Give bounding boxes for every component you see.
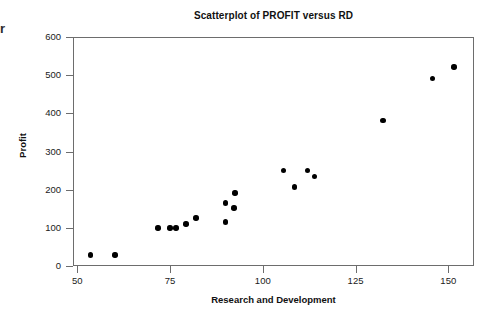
data-point [451, 64, 456, 69]
data-point [305, 168, 310, 173]
y-axis-tick-label: 200 [35, 185, 61, 195]
y-axis-title: Profit [17, 116, 28, 176]
x-axis-tick-label: 150 [428, 276, 468, 286]
x-axis-tick [448, 266, 449, 273]
x-axis-title: Research and Development [73, 294, 474, 305]
y-axis-tick [66, 75, 73, 76]
data-point [112, 252, 117, 257]
scatterplot-figure: r Scatterplot of PROFIT versus RD 010020… [0, 0, 501, 325]
x-axis-tick-label: 100 [243, 276, 283, 286]
y-axis-tick [66, 190, 73, 191]
data-point [193, 215, 198, 220]
y-axis-tick-label: 300 [35, 147, 61, 157]
y-axis-tick [66, 266, 73, 267]
y-axis-tick [66, 37, 73, 38]
data-point [183, 221, 188, 226]
x-axis-tick-label: 75 [150, 276, 190, 286]
data-point [173, 225, 178, 230]
data-point [155, 225, 160, 230]
scan-edge-artifact: r [0, 22, 4, 35]
data-point [223, 219, 228, 224]
x-axis-tick-label: 125 [336, 276, 376, 286]
y-axis-tick [66, 228, 73, 229]
data-point [292, 184, 297, 189]
data-point [380, 118, 385, 123]
x-axis-tick [263, 266, 264, 273]
data-point [231, 205, 236, 210]
data-point [430, 76, 435, 81]
y-axis-tick-label: 600 [35, 32, 61, 42]
y-axis-tick-label: 400 [35, 108, 61, 118]
y-axis-tick-label: 500 [35, 70, 61, 80]
y-axis-tick-label: 100 [35, 223, 61, 233]
y-axis-tick [66, 152, 73, 153]
chart-title: Scatterplot of PROFIT versus RD [73, 10, 474, 21]
x-axis-tick [77, 266, 78, 273]
data-point [223, 200, 228, 205]
x-axis-tick-label: 50 [57, 276, 97, 286]
x-axis-tick [356, 266, 357, 273]
x-axis-tick [170, 266, 171, 273]
plot-area [73, 37, 474, 266]
data-point [281, 168, 286, 173]
y-axis-tick-label: 0 [35, 261, 61, 271]
data-point [167, 225, 172, 230]
data-point [232, 190, 237, 195]
data-point [312, 174, 317, 179]
data-point [88, 252, 93, 257]
y-axis-tick [66, 113, 73, 114]
